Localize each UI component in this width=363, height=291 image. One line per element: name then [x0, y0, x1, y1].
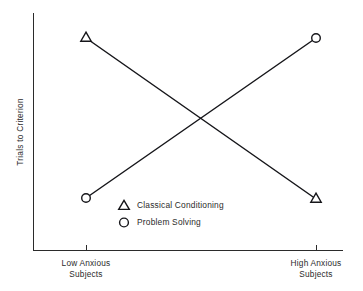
- circle-icon: [120, 218, 129, 227]
- data-point-problem-solving-high-anxious: [312, 34, 321, 43]
- data-point-classical-high-anxious: [311, 193, 321, 202]
- legend-item-classical-conditioning: Classical Conditioning: [119, 200, 224, 210]
- legend-label-problem-solving: Problem Solving: [137, 217, 201, 227]
- legend-label-classical-conditioning: Classical Conditioning: [137, 200, 224, 210]
- legend: Classical Conditioning Problem Solving: [119, 200, 224, 227]
- line-chart: Trials to Criterion Classical Conditioni…: [0, 0, 363, 291]
- x-tick-label-high-anxious: High Anxious Subjects: [291, 258, 342, 279]
- x-tick-label-low-anxious: Low Anxious Subjects: [62, 258, 111, 279]
- triangle-icon: [119, 200, 130, 209]
- chart-container: Trials to Criterion Classical Conditioni…: [0, 0, 363, 291]
- x-tick-label-low-anxious-line1: Low Anxious: [62, 258, 111, 268]
- legend-item-problem-solving: Problem Solving: [120, 217, 202, 227]
- y-axis-label-group: Trials to Criterion: [15, 98, 25, 166]
- data-point-problem-solving-low-anxious: [82, 194, 91, 203]
- x-tick-label-high-anxious-line2: Subjects: [299, 269, 332, 279]
- y-axis-label: Trials to Criterion: [15, 98, 25, 166]
- x-tick-label-low-anxious-line2: Subjects: [69, 269, 102, 279]
- x-tick-label-high-anxious-line1: High Anxious: [291, 258, 342, 268]
- data-point-classical-low-anxious: [81, 32, 91, 41]
